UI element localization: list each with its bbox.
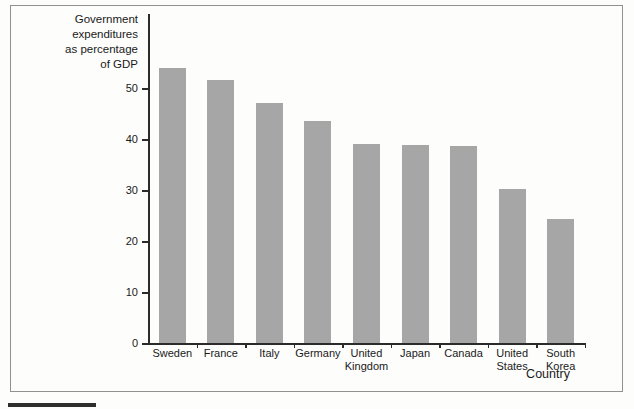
x-tick (536, 343, 538, 348)
x-tick (585, 343, 587, 348)
y-tick-label: 20 (108, 235, 138, 247)
y-axis-title-line: as percentage (28, 42, 138, 57)
y-tick (142, 241, 148, 243)
y-tick-label: 30 (108, 184, 138, 196)
x-tick (488, 343, 490, 348)
x-tick (245, 343, 247, 348)
y-axis-title-line: expenditures (28, 27, 138, 42)
bar (450, 146, 477, 343)
y-tick-label: 10 (108, 286, 138, 298)
bar (499, 189, 526, 343)
bar (304, 121, 331, 343)
bar (207, 80, 234, 343)
bar-category-label-line: Korea (530, 360, 591, 373)
y-axis-title-line: of GDP (28, 57, 138, 72)
y-tick (142, 139, 148, 141)
y-tick-label: 40 (108, 133, 138, 145)
bar (159, 68, 186, 343)
page: Government expenditures as percentage of… (0, 0, 634, 409)
x-axis-line (142, 343, 586, 345)
y-tick (142, 343, 148, 345)
x-tick (294, 343, 296, 348)
y-tick (142, 88, 148, 90)
figure-tab-bar (8, 403, 96, 407)
y-tick (142, 190, 148, 192)
bar-category-label-line: South (530, 347, 591, 360)
y-tick (142, 292, 148, 294)
x-tick (439, 343, 441, 348)
x-tick (391, 343, 393, 348)
y-axis-title-line: Government (28, 12, 138, 27)
x-tick (342, 343, 344, 348)
bar (547, 219, 574, 343)
y-axis-line (148, 14, 150, 343)
y-tick-label: 0 (108, 337, 138, 349)
y-axis-title: Government expenditures as percentage of… (28, 12, 138, 72)
bar-category-label-line: Kingdom (336, 360, 397, 373)
bar-category-label: SouthKorea (530, 347, 591, 373)
bar (402, 145, 429, 343)
y-tick-label: 50 (108, 82, 138, 94)
bar (353, 144, 380, 343)
x-tick (197, 343, 199, 348)
bar (256, 103, 283, 343)
